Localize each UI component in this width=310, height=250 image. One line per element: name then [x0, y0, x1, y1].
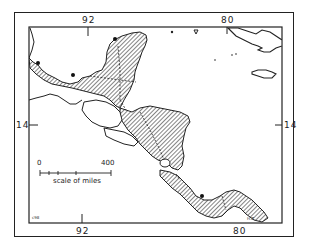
scale-end: 400: [101, 159, 114, 167]
island-small-top: [194, 30, 198, 34]
city-dot: [71, 73, 75, 77]
lon-label-bottom-80: 80: [233, 226, 246, 236]
scale-caption: scale of miles: [53, 177, 101, 185]
scale-bar: [40, 170, 111, 176]
coastline-gulf-mexico: [29, 28, 34, 58]
island-dot: [171, 31, 173, 33]
region-costa-rica-panama: [160, 170, 268, 222]
scale-start: 0: [37, 159, 41, 167]
lat-label-left-14: 14: [16, 120, 29, 130]
region-mexico-south: [29, 32, 147, 108]
corner-mark-bottom-right: H.Z.: [247, 216, 255, 221]
lon-label-bottom-92: 92: [76, 226, 89, 236]
coastline-pacific-mexico: [29, 94, 82, 104]
lake-nicaragua: [160, 159, 170, 167]
lon-label-top-92: 92: [82, 15, 95, 25]
city-dot: [113, 37, 117, 41]
city-dot: [200, 194, 204, 198]
corner-mark-bottom-left: c98: [32, 215, 39, 220]
lat-label-right-14: 14: [284, 120, 297, 130]
map-canvas: [0, 0, 310, 250]
island-cuba: [228, 28, 282, 52]
lon-label-top-80: 80: [221, 15, 234, 25]
city-dot: [36, 61, 40, 65]
island-jamaica: [252, 70, 276, 78]
